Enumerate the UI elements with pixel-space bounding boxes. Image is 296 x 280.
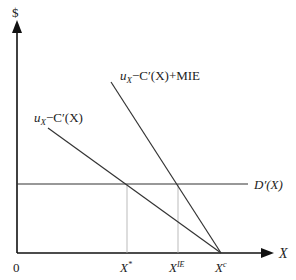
marginal-private-line	[48, 128, 221, 253]
x-ie-tick-label: XIE	[168, 260, 185, 275]
marginal-mie-label: uX−C′(X)+MIE	[120, 68, 200, 85]
origin-label: 0	[13, 260, 20, 275]
x-star-tick-label: X*	[119, 260, 132, 275]
marginal-mie-line	[111, 82, 221, 253]
economics-diagram: $ X 0 uX−C′(X) uX−C′(X)+MIE D′(X) X* XIE…	[0, 0, 296, 280]
y-axis-arrow-icon	[12, 20, 22, 33]
x-axis-arrow-icon	[261, 248, 274, 258]
x-c-tick-label: Xc	[214, 260, 227, 275]
x-axis-label: X	[278, 246, 288, 261]
demand-label: D′(X)	[253, 177, 283, 192]
marginal-private-label: uX−C′(X)	[34, 110, 83, 127]
y-axis-label: $	[12, 5, 19, 20]
